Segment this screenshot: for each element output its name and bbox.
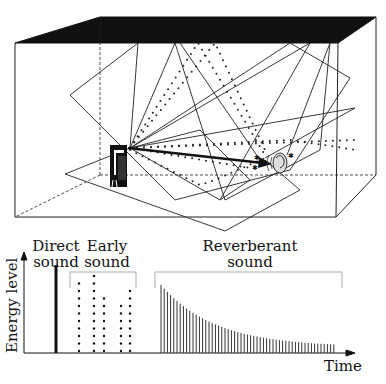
room-diagram: ✱ ✱ ✱ (0, 0, 386, 384)
y-axis-label: Energy level (4, 263, 20, 353)
direct-sound-bar (55, 265, 58, 353)
svg-text:✱: ✱ (254, 154, 260, 162)
early-sound-dots (78, 275, 131, 352)
reverberant-sound-label: Reverberant sound (200, 238, 300, 270)
early-sound-label: Early sound (84, 238, 130, 270)
svg-text:✱: ✱ (252, 164, 258, 172)
room-box (15, 17, 376, 217)
reflection-paths (65, 43, 355, 231)
hidden-edges (15, 17, 376, 217)
direct-sound-label: Direct sound (30, 238, 82, 270)
brackets (70, 272, 342, 288)
ceiling-face (15, 17, 376, 43)
sound-source (110, 145, 127, 187)
x-axis-label: Time (318, 358, 368, 374)
svg-text:✱: ✱ (288, 152, 294, 160)
reverberant-sound-lines (161, 285, 334, 353)
